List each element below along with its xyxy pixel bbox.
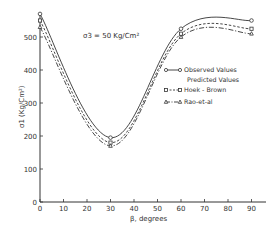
- x-tick-label: 50: [153, 205, 162, 213]
- legend: Observed Values Predicted Values Hoek - …: [164, 66, 239, 105]
- x-axis-label: β, degrees: [130, 215, 167, 223]
- legend-observed: Observed Values: [184, 66, 237, 73]
- x-ticks: 0102030405060708090: [38, 199, 256, 213]
- x-tick-label: 20: [83, 205, 92, 213]
- legend-rao-et-al: Rao-et-al: [184, 98, 213, 105]
- y-tick-label: 400: [24, 67, 37, 75]
- x-tick-label: 40: [130, 205, 139, 213]
- x-tick-label: 30: [106, 205, 115, 213]
- y-tick-label: 500: [24, 34, 37, 42]
- x-tick-label: 0: [38, 205, 42, 213]
- x-tick-label: 70: [200, 205, 209, 213]
- x-tick-label: 80: [224, 205, 233, 213]
- y-tick-label: 100: [24, 166, 37, 174]
- y-axis-label: σ1 (Kg/Cm²): [18, 85, 26, 128]
- x-tick-label: 90: [247, 205, 256, 213]
- annotation-sigma3: σ3 = 50 Kg/Cm²: [83, 32, 139, 40]
- chart: 0100200300400500 0102030405060708090 σ3 …: [0, 0, 273, 236]
- x-tick-label: 10: [59, 205, 68, 213]
- legend-hoek-brown: Hoek - Brown: [184, 86, 226, 93]
- legend-predicted-header: Predicted Values: [187, 76, 239, 83]
- x-tick-label: 60: [177, 205, 186, 213]
- y-tick-label: 200: [24, 133, 37, 141]
- y-tick-label: 0: [33, 199, 37, 207]
